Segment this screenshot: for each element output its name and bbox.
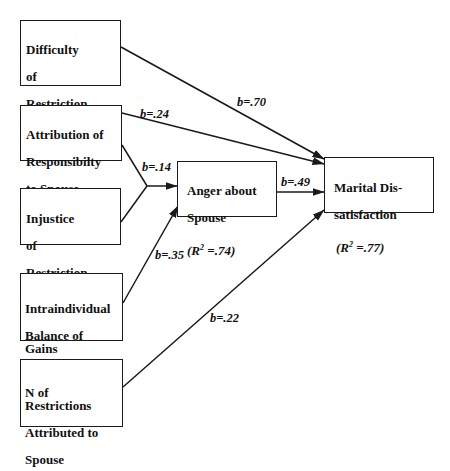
coef-nrestrictions-marital: b=.22	[210, 312, 239, 325]
node-label-line: Difficulty	[26, 43, 116, 57]
node-label-line: Responsibilty	[26, 155, 117, 169]
r-squared-anger: (R2 =.74)	[187, 241, 272, 258]
node-intraindividual-balance: Intraindividual Balance of Gains & Losse…	[20, 273, 123, 341]
r2-prefix: (R	[187, 243, 200, 258]
node-label-line: Attribution of	[26, 128, 117, 142]
node-label-line: satisfaction	[334, 208, 429, 222]
r2-value: =.77)	[353, 240, 384, 255]
node-injustice-of-restriction: Injustice of Restriction	[20, 188, 121, 245]
node-label-line: Injustice	[26, 212, 116, 226]
node-label-line: Attributed to	[25, 426, 118, 440]
node-label-line: N of Restrictions	[25, 386, 118, 413]
node-label-line: Spouse	[187, 211, 272, 225]
node-label-line: Anger about	[187, 184, 272, 198]
r2-prefix: (R	[336, 240, 349, 255]
node-n-of-restrictions: N of Restrictions Attributed to Spouse	[20, 359, 123, 427]
node-label-line: Intraindividual	[25, 302, 118, 316]
node-label-line: Balance of Gains	[25, 329, 118, 356]
node-label-line: of	[26, 239, 116, 253]
node-label-line: Spouse	[25, 453, 118, 467]
arrow-difficulty-to-marital	[121, 47, 324, 159]
node-difficulty-of-restriction: Difficulty of Restriction	[20, 20, 121, 86]
node-anger-about-spouse: Anger about Spouse (R2 =.74)	[177, 161, 277, 217]
node-label-line: Marital Dis-	[334, 181, 429, 195]
node-attribution-of-responsibility: Attribution of Responsibilty to Spouse	[20, 105, 122, 161]
line-injustice-to-junction	[121, 186, 147, 222]
coef-attribution-marital: b=.24	[140, 108, 169, 121]
coef-difficulty-marital: b=.70	[237, 96, 266, 109]
r2-value: =.74)	[204, 243, 235, 258]
coef-junction-anger: b=.14	[142, 161, 171, 174]
node-label-line: of	[26, 70, 116, 84]
node-marital-dissatisfaction: Marital Dis- satisfaction (R2 =.77)	[324, 157, 434, 213]
coef-anger-marital: b=.49	[281, 176, 310, 189]
coef-balance-anger: b=.35	[155, 249, 184, 262]
r-squared-marital: (R2 =.77)	[336, 238, 429, 255]
